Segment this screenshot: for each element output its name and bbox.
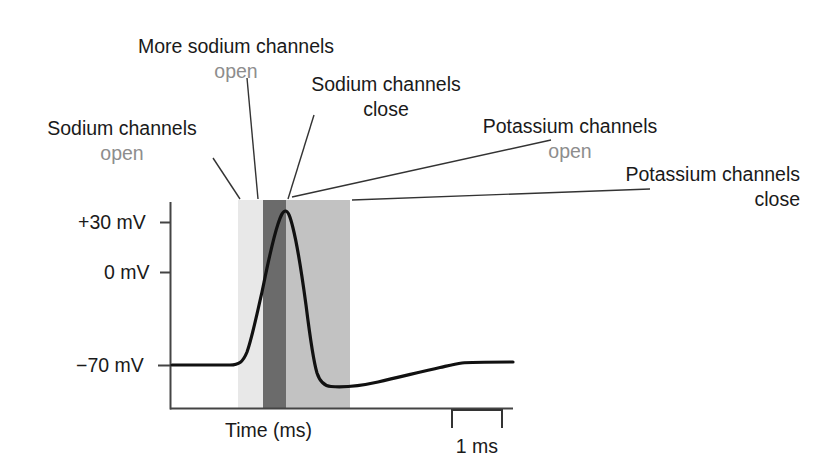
y-tick-label-zero: 0 mV	[104, 261, 150, 284]
x-axis-label: Time (ms)	[225, 419, 312, 442]
annotation-sodium-close: Sodium channels close	[300, 72, 472, 122]
annotation-sodium-close-line2: close	[300, 97, 472, 122]
annotation-potassium-open: Potassium channels open	[475, 114, 665, 164]
leader-line-sodium-open	[213, 158, 240, 199]
action-potential-figure: Sodium channels open More sodium channel…	[0, 0, 829, 472]
leader-line-sodium-close	[288, 115, 314, 199]
annotation-potassium-close: Potassium channels close	[560, 162, 800, 212]
annotation-potassium-close-line1: Potassium channels	[625, 163, 800, 185]
annotation-sodium-open: Sodium channels open	[34, 116, 210, 166]
annotation-potassium-open-line1: Potassium channels	[483, 115, 658, 137]
annotation-potassium-open-line2: open	[475, 139, 665, 164]
annotation-sodium-close-line1: Sodium channels	[311, 73, 461, 95]
y-tick-label-plus30: +30 mV	[78, 211, 146, 234]
figure-canvas	[0, 0, 829, 472]
scale-bar-bracket	[452, 410, 502, 428]
annotation-sodium-open-line1: Sodium channels	[47, 117, 197, 139]
annotation-potassium-close-line2: close	[560, 187, 800, 212]
leader-line-more-sodium-open	[247, 78, 258, 199]
annotation-more-sodium-open-line1: More sodium channels	[138, 35, 334, 57]
scale-bar-label: 1 ms	[452, 435, 502, 458]
y-tick-label-minus70: −70 mV	[76, 354, 144, 377]
annotation-sodium-open-line2: open	[34, 141, 210, 166]
